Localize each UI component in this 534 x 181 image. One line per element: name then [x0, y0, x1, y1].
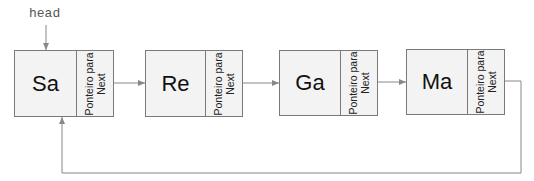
pointer-label-next: Next — [95, 52, 107, 115]
pointer-label-next: Next — [224, 52, 236, 115]
next-pointer-field: Ponteiro paraNext — [341, 51, 377, 115]
pointer-label: Ponteiro para — [212, 52, 224, 115]
node-value: Re — [146, 51, 206, 116]
node-ma: Ma Ponteiro paraNext — [406, 49, 505, 115]
node-value: Ma — [407, 50, 468, 114]
node-value: Sa — [15, 51, 77, 116]
pointer-label: Ponteiro para — [474, 50, 486, 113]
next-pointer-field: Ponteiro paraNext — [77, 51, 113, 116]
next-pointer-field: Ponteiro paraNext — [468, 50, 504, 114]
pointer-label-next: Next — [359, 51, 371, 114]
node-sa: Sa Ponteiro paraNext — [14, 50, 114, 117]
pointer-label: Ponteiro para — [83, 52, 95, 115]
pointer-label: Ponteiro para — [347, 51, 359, 114]
node-value: Ga — [280, 51, 341, 115]
pointer-label-next: Next — [486, 50, 498, 113]
node-re: Re Ponteiro paraNext — [145, 50, 243, 117]
next-pointer-field: Ponteiro paraNext — [206, 51, 242, 116]
node-ga: Ga Ponteiro paraNext — [279, 50, 378, 116]
